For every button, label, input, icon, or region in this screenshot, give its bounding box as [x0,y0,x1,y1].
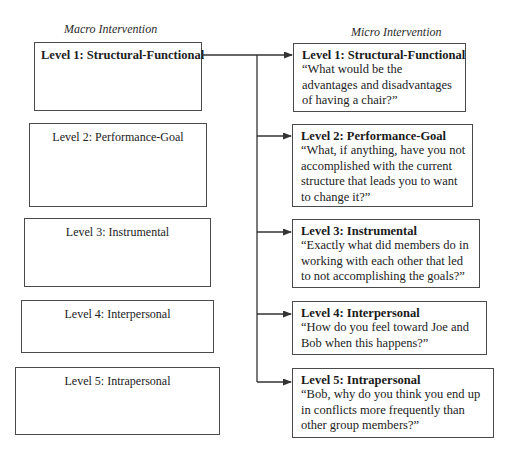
micro-level-5-box: Level 5: Intrapersonal “Bob, why do you … [292,368,494,438]
micro-level-2-box: Level 2: Performance-Goal “What, if anyt… [292,124,473,207]
macro-level-3-box: Level 3: Instrumental [24,218,211,287]
micro-level-1-question: “What would be the advantages and disadv… [302,62,459,109]
micro-level-5-label: Level 5: Intrapersonal [301,373,487,387]
micro-level-3-question: “Exactly what did members do in working … [301,238,473,285]
macro-level-1-label: Level 1: Structural-Functional [35,43,201,63]
macro-level-5-label: Level 5: Intrapersonal [16,368,219,389]
macro-level-1-box: Level 1: Structural-Functional [34,42,202,111]
micro-level-1-label: Level 1: Structural-Functional [302,48,459,62]
micro-level-4-box: Level 4: Interpersonal “How do you feel … [292,301,487,355]
macro-level-4-box: Level 4: Interpersonal [21,300,214,353]
macro-level-2-label: Level 2: Performance-Goal [30,124,206,145]
macro-level-5-box: Level 5: Intrapersonal [15,367,220,435]
micro-column-title: Micro Intervention [351,25,442,40]
micro-level-2-label: Level 2: Performance-Goal [301,129,466,143]
macro-column-title: Macro Intervention [64,22,157,37]
micro-level-4-question: “How do you feel toward Joe and Bob when… [301,320,480,351]
micro-level-5-question: “Bob, why do you think you end up in con… [301,387,487,434]
micro-level-3-label: Level 3: Instrumental [301,224,473,238]
micro-level-1-box: Level 1: Structural-Functional “What wou… [293,43,466,112]
micro-level-3-box: Level 3: Instrumental “Exactly what did … [292,219,480,288]
macro-level-3-label: Level 3: Instrumental [25,219,210,240]
micro-level-4-label: Level 4: Interpersonal [301,306,480,320]
macro-level-2-box: Level 2: Performance-Goal [29,123,207,207]
macro-level-4-label: Level 4: Interpersonal [22,301,213,322]
micro-level-2-question: “What, if anything, have you not accompl… [301,143,466,205]
